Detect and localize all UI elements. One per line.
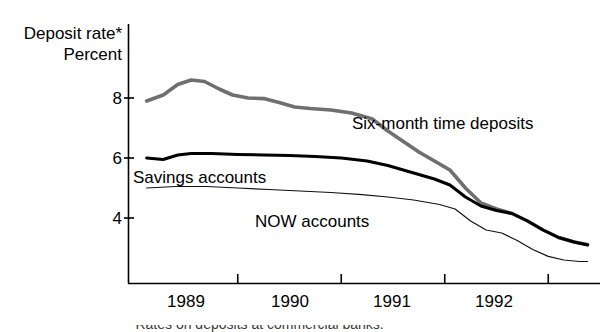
x-axis-tick-label-1992: 1992	[462, 293, 526, 310]
y-axis-tick-label-4: 4	[100, 210, 122, 227]
x-axis-tick-label-1991: 1991	[360, 293, 424, 310]
y-axis-tick-label-8: 8	[100, 90, 122, 107]
deposit-rate-line-chart: Deposit rate* Percent 8 6 4 1989 1990 19…	[0, 0, 607, 332]
y-axis-tick-label-6: 6	[100, 150, 122, 167]
x-axis-ticks	[238, 274, 549, 284]
x-axis-tick-label-1989: 1989	[154, 293, 218, 310]
footnote-clipped-strip: *Rates on deposits at commercial banks.	[0, 325, 607, 332]
series-label-six-month-time-deposits: Six-month time deposits	[352, 115, 533, 132]
y-axis-unit-label: Percent	[4, 45, 122, 65]
series-label-savings-accounts: Savings accounts	[133, 169, 266, 186]
chart-footnote: *Rates on deposits at commercial banks.	[130, 325, 384, 332]
chart-title: Deposit rate*	[4, 24, 122, 44]
x-axis-tick-label-1990: 1990	[258, 293, 322, 310]
series-label-now-accounts: NOW accounts	[255, 213, 369, 230]
